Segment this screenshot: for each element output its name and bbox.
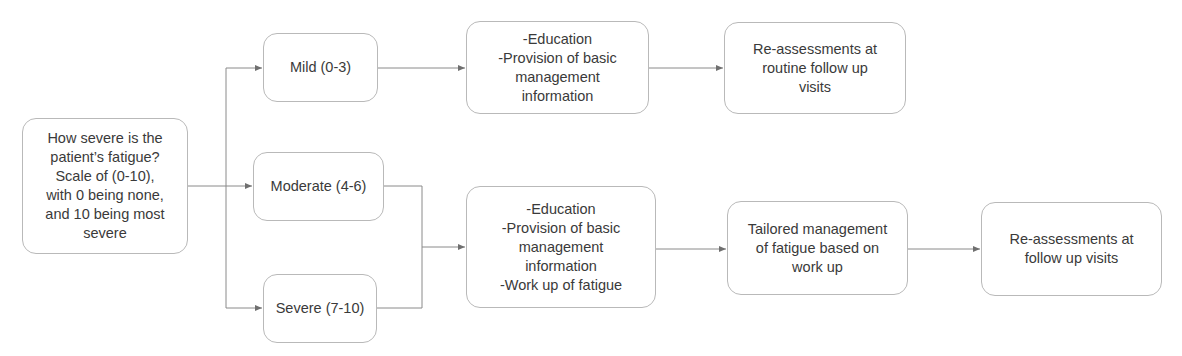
node-mild-management: -Education -Provision of basic managemen…	[466, 21, 649, 114]
node-fatigue-severity-question: How severe is the patient’s fatigue? Sca…	[22, 118, 188, 254]
node-moderate: Moderate (4-6)	[253, 152, 384, 221]
fatigue-severity-flowchart: How severe is the patient’s fatigue? Sca…	[0, 0, 1182, 356]
node-mild-followup: Re-assessments at routine follow up visi…	[724, 22, 906, 114]
node-label: How severe is the patient’s fatigue? Sca…	[45, 129, 164, 243]
node-moderate-severe-management: -Education -Provision of basic managemen…	[466, 186, 656, 308]
node-label: Mild (0-3)	[290, 58, 351, 77]
node-moderate-severe-followup: Re-assessments at follow up visits	[981, 202, 1162, 296]
node-label: Tailored management of fatigue based on …	[748, 220, 887, 277]
node-label: Re-assessments at follow up visits	[1009, 230, 1133, 268]
node-label: -Education -Provision of basic managemen…	[500, 200, 622, 295]
node-tailored-management: Tailored management of fatigue based on …	[727, 201, 908, 295]
node-mild: Mild (0-3)	[263, 33, 378, 102]
node-label: Re-assessments at routine follow up visi…	[753, 40, 877, 97]
node-label: Severe (7-10)	[276, 299, 365, 318]
node-severe: Severe (7-10)	[263, 274, 377, 343]
node-label: Moderate (4-6)	[271, 177, 367, 196]
node-label: -Education -Provision of basic managemen…	[498, 30, 616, 106]
